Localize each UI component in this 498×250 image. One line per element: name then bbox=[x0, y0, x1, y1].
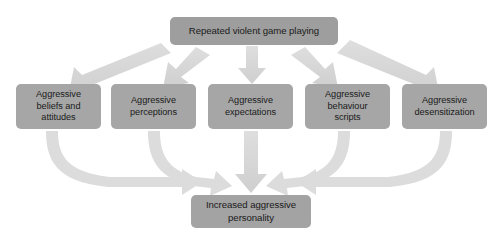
node-increased-aggressive-personality[interactable]: Increased aggressive personality bbox=[191, 195, 311, 228]
node-label: Aggressive behaviour scripts bbox=[309, 89, 386, 124]
arrow-expectations-to-personality bbox=[235, 131, 267, 193]
arrow-beliefs-to-personality bbox=[46, 131, 202, 195]
node-aggressive-behaviour-scripts[interactable]: Aggressive behaviour scripts bbox=[305, 84, 390, 129]
node-aggressive-perceptions[interactable]: Aggressive perceptions bbox=[111, 84, 196, 129]
flow-diagram: Repeated violent game playing Aggressive… bbox=[0, 0, 498, 250]
arrow-top-to-behaviour-scripts bbox=[291, 47, 338, 88]
node-aggressive-desensitization[interactable]: Aggressive desensitization bbox=[402, 84, 487, 129]
node-label: Repeated violent game playing bbox=[174, 25, 334, 37]
node-label: Aggressive perceptions bbox=[115, 95, 192, 119]
node-aggressive-beliefs-and-attitudes[interactable]: Aggressive beliefs and attitudes bbox=[16, 84, 101, 129]
node-label: Aggressive beliefs and attitudes bbox=[20, 89, 97, 124]
node-label: Aggressive expectations bbox=[212, 95, 289, 119]
arrow-desensitization-to-personality bbox=[296, 131, 452, 195]
node-label: Increased aggressive personality bbox=[195, 199, 307, 224]
arrow-top-to-expectations bbox=[238, 46, 266, 84]
node-label: Aggressive desensitization bbox=[406, 95, 483, 119]
node-aggressive-expectations[interactable]: Aggressive expectations bbox=[208, 84, 293, 129]
node-repeated-violent-game-playing[interactable]: Repeated violent game playing bbox=[170, 17, 338, 45]
